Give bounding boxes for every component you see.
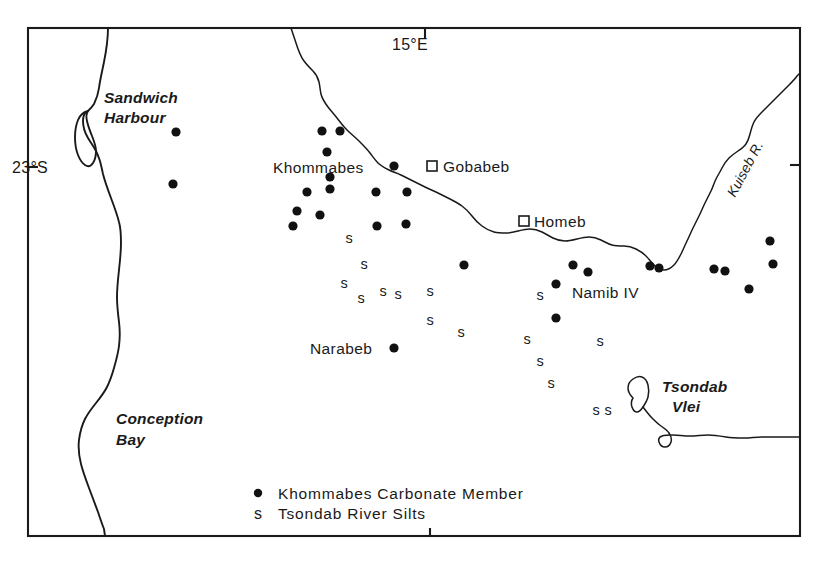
gobabeb-label: Gobabeb xyxy=(443,158,510,175)
carbonate-locality-dot xyxy=(389,161,398,170)
silt-locality-marker: s xyxy=(523,331,530,347)
silt-locality-marker: s xyxy=(379,283,386,299)
namib-iv-label: Namib IV xyxy=(572,284,639,301)
namib-desert-distribution-map: Kuiseb R. Tsondab Vlei Sandwich Harbour … xyxy=(0,0,823,579)
carbonate-locality-dot xyxy=(459,260,468,269)
legend-label-silts: Tsondab River Silts xyxy=(278,505,426,522)
carbonate-locality-dot xyxy=(401,219,410,228)
carbonate-locality-dot xyxy=(322,147,331,156)
carbonate-locality-dot xyxy=(389,343,398,352)
gobabeb-square-marker xyxy=(427,161,437,171)
conception-bay-label-line2: Bay xyxy=(116,431,146,448)
carbonate-locality-dot xyxy=(765,236,774,245)
khommabes-label: Khommabes xyxy=(273,159,364,176)
silt-locality-marker: s xyxy=(604,402,611,418)
silt-locality-marker: s xyxy=(536,353,543,369)
carbonate-locality-dot xyxy=(302,187,311,196)
silt-locality-marker: s xyxy=(596,333,603,349)
kuiseb-river-label: Kuiseb R. xyxy=(724,138,767,199)
silt-locality-marker: s xyxy=(426,283,433,299)
map-canvas: Kuiseb R. Tsondab Vlei Sandwich Harbour … xyxy=(0,0,823,579)
latitude-label: 23°S xyxy=(12,159,48,176)
silt-locality-marker: s xyxy=(457,324,464,340)
carbonate-locality-dot xyxy=(372,221,381,230)
carbonate-locality-dot xyxy=(325,184,334,193)
silt-locality-marker: s xyxy=(536,287,543,303)
sandwich-harbour-label-line1: Sandwich xyxy=(104,89,178,106)
sandwich-harbour-spit xyxy=(75,111,96,166)
carbonate-locality-dot xyxy=(720,266,729,275)
carbonate-locality-dot xyxy=(744,284,753,293)
legend-dot-symbol xyxy=(254,489,262,497)
carbonate-locality-dot xyxy=(402,187,411,196)
conception-bay-label-line1: Conception xyxy=(116,410,203,427)
kuiseb-river-label-group: Kuiseb R. xyxy=(724,138,767,199)
kuiseb-river xyxy=(291,28,800,270)
tsondab-vlei-pan xyxy=(628,377,649,412)
carbonate-locality-dot xyxy=(168,179,177,188)
homeb-label: Homeb xyxy=(534,213,586,230)
carbonate-locality-dot xyxy=(768,259,777,268)
tsondab-vlei-label-line2: Vlei xyxy=(672,398,701,415)
sandwich-harbour-label-line2: Harbour xyxy=(104,109,166,126)
silt-locality-marker: s xyxy=(340,275,347,291)
tsondab-drainage-channel xyxy=(643,407,800,447)
silt-locality-marker: s xyxy=(426,312,433,328)
silt-locality-marker: s xyxy=(360,256,367,272)
carbonate-locality-dot xyxy=(645,261,654,270)
tsondab-vlei-label-line1: Tsondab xyxy=(662,378,728,395)
tsondab-silt-layer: ssssssssssssssss xyxy=(340,230,611,418)
carbonate-locality-dot xyxy=(335,126,344,135)
homeb-square-marker xyxy=(519,216,529,226)
longitude-label: 15°E xyxy=(392,36,428,53)
silt-locality-marker: s xyxy=(547,375,554,391)
carbonate-locality-dot xyxy=(654,263,663,272)
silt-locality-marker: s xyxy=(592,402,599,418)
legend-label-carbonate: Khommabes Carbonate Member xyxy=(278,485,524,502)
carbonate-locality-dot xyxy=(292,206,301,215)
carbonate-locality-dot xyxy=(568,260,577,269)
carbonate-locality-dot xyxy=(551,279,560,288)
silt-locality-marker: s xyxy=(357,290,364,306)
carbonate-locality-dot xyxy=(317,126,326,135)
carbonate-locality-dot xyxy=(551,313,560,322)
carbonate-locality-dot xyxy=(171,127,180,136)
carbonate-locality-dot xyxy=(315,210,324,219)
narabeb-label: Narabeb xyxy=(310,340,372,357)
carbonate-locality-dot xyxy=(288,221,297,230)
map-legend: Khommabes Carbonate Member s Tsondab Riv… xyxy=(254,485,524,522)
legend-s-symbol: s xyxy=(254,505,262,522)
carbonate-locality-dot xyxy=(583,267,592,276)
carbonate-locality-dot xyxy=(709,264,718,273)
silt-locality-marker: s xyxy=(394,286,401,302)
carbonate-locality-dot xyxy=(371,187,380,196)
silt-locality-marker: s xyxy=(345,230,352,246)
